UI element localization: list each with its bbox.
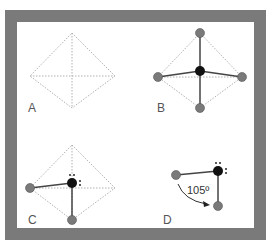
molecular-geometry-diagram: A B — [0, 0, 271, 251]
atom-bottom — [68, 216, 77, 225]
atom-left — [172, 171, 181, 180]
central-atom — [213, 166, 223, 176]
atom-left — [154, 73, 163, 82]
panel-d: 105º D — [163, 162, 227, 227]
arrow-head-icon — [203, 201, 210, 207]
atom-bottom — [214, 202, 223, 211]
atom-left — [26, 184, 35, 193]
panel-d-label: D — [163, 213, 172, 227]
panel-a-label: A — [28, 101, 36, 115]
atom-right — [238, 73, 247, 82]
panel-b-label: B — [157, 101, 165, 115]
atom-top — [196, 29, 205, 38]
panel-b: B — [154, 29, 247, 116]
panel-a: A — [28, 33, 115, 115]
central-atom — [67, 178, 77, 188]
panel-c: C — [26, 145, 116, 227]
central-atom — [195, 66, 205, 76]
atom-bottom — [196, 104, 205, 113]
bond-angle-label: 105º — [187, 184, 209, 196]
panel-c-label: C — [28, 213, 37, 227]
